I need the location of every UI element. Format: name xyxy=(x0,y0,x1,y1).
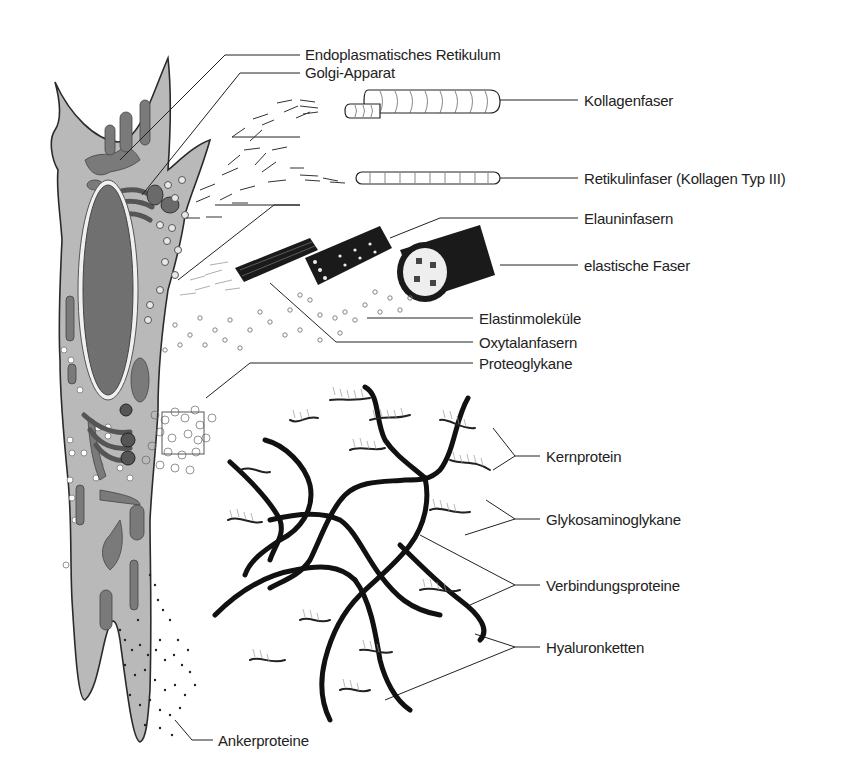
label-oxytalan-fibers: Oxytalanfasern xyxy=(479,335,577,350)
label-reticular-fiber: Retikulinfaser (Kollagen Typ III) xyxy=(584,171,786,186)
label-hyaluronan-chains: Hyaluronketten xyxy=(546,640,644,655)
label-link-proteins: Verbindungsproteine xyxy=(546,578,680,593)
label-glycosaminoglycans: Glykosaminoglykane xyxy=(546,512,681,527)
label-elastic-fiber: elastische Faser xyxy=(584,258,690,273)
label-elaunin-fibers: Elauninfasern xyxy=(584,211,673,226)
label-golgi-apparatus: Golgi-Apparat xyxy=(305,65,395,80)
oxytalan-fiber-bundle xyxy=(180,238,318,295)
label-core-protein: Kernprotein xyxy=(546,449,621,464)
label-anchor-proteins: Ankerproteine xyxy=(218,733,309,748)
label-proteoglycans: Proteoglykane xyxy=(479,356,572,371)
ecm-diagram xyxy=(0,0,857,778)
elastic-fiber xyxy=(397,225,495,302)
vesicle-dark xyxy=(147,185,163,205)
collagen-fiber xyxy=(345,90,500,118)
elaunin-fiber-bundle xyxy=(305,226,392,285)
label-collagen-fiber: Kollagenfaser xyxy=(584,93,673,108)
nucleus xyxy=(83,185,133,395)
reticular-fiber xyxy=(356,172,500,184)
label-elastin-molecules: Elastinmoleküle xyxy=(479,311,581,326)
tropocollagen-molecules xyxy=(186,100,345,218)
fibroblast-cell xyxy=(51,58,210,742)
hyaluronan-network xyxy=(215,387,484,720)
label-endoplasmic-reticulum: Endoplasmatisches Retikulum xyxy=(305,47,501,62)
